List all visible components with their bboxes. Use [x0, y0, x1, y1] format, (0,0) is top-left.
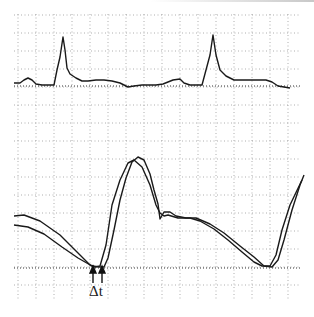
traces [14, 35, 304, 267]
delta-t-arrows [90, 266, 105, 283]
chart-canvas [0, 0, 314, 317]
pressure-1-trace [14, 160, 302, 267]
pressure-2-trace [14, 157, 304, 267]
grid [14, 14, 300, 300]
ecg-trace [14, 35, 290, 88]
delta-t-label: Δt [89, 283, 103, 300]
